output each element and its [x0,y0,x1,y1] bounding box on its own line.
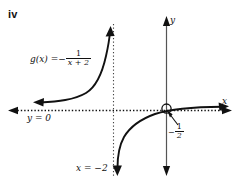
equation-lhs: g(x) = [30,54,58,64]
y-axis-label: y [170,16,175,25]
vertical-asymptote-label: x = −2 [76,164,108,173]
horizontal-asymptote-label: y = 0 [27,114,51,123]
y-axis-arrow-down [163,166,170,176]
graph-canvas [0,0,239,190]
equation-denominator: x + 2 [66,59,91,67]
intercept-fraction: 12 [175,123,184,140]
y-axis [163,16,170,176]
intercept-denominator: 2 [175,132,184,140]
x-axis-label: x [222,97,227,106]
intercept-sign: − [168,128,175,137]
right-branch-arrow-down [113,166,122,176]
equation-sign: − [58,54,66,64]
figure-panel: iv [0,0,239,190]
y-intercept-label: −12 [168,124,184,141]
x-axis-arrow-left [8,107,18,114]
left-branch-arrow-left [33,98,44,107]
equation-fraction: 1x + 2 [66,50,91,67]
function-equation-label: g(x) =−1x + 2 [30,51,91,68]
